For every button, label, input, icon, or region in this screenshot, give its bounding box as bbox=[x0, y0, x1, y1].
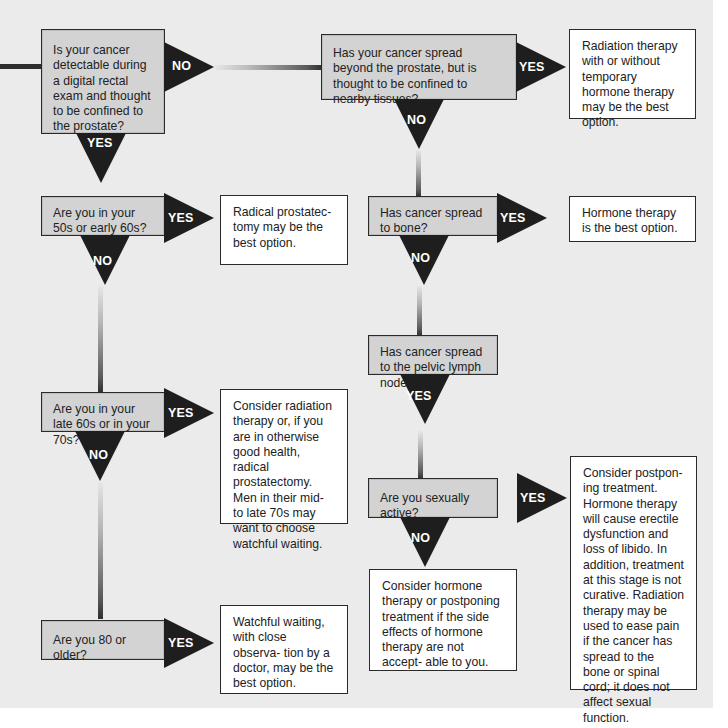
diagram-background: Is your cancer detectable during a digit… bbox=[0, 0, 713, 708]
answer-q4-yes: Watchful waiting, with close observa- ti… bbox=[220, 605, 348, 694]
yes-label: YES bbox=[168, 211, 194, 225]
question-q2: Are you in your 50s or early 60s? bbox=[41, 196, 165, 236]
yes-label: YES bbox=[500, 211, 526, 225]
no-label: NO bbox=[407, 113, 426, 127]
yes-label: YES bbox=[168, 406, 194, 420]
answer-q2-yes: Radical prostatec- tomy may be the best … bbox=[220, 195, 348, 265]
answer-q5-yes-text: Radiation therapy with or without tempor… bbox=[582, 39, 678, 129]
answer-q6-yes: Hormone therapy is the best option. bbox=[569, 196, 696, 242]
question-q4: Are you 80 or older? bbox=[41, 620, 165, 660]
yes-label: YES bbox=[168, 636, 194, 650]
no-label: NO bbox=[411, 251, 430, 265]
question-q1: Is your cancer detectable during a digit… bbox=[41, 29, 165, 134]
question-q6-text: Has cancer spread to bone? bbox=[380, 206, 482, 235]
question-q6: Has cancer spread to bone? bbox=[368, 196, 498, 236]
answer-q3-yes-text: Consider radiation therapy or, if you ar… bbox=[233, 399, 332, 551]
answer-q6-yes-text: Hormone therapy is the best option. bbox=[582, 206, 678, 235]
question-q1-text: Is your cancer detectable during a digit… bbox=[53, 43, 151, 133]
answer-q8-no: Consider hormone therapy or postponing t… bbox=[369, 569, 517, 671]
question-q4-text: Are you 80 or older? bbox=[53, 633, 126, 662]
answer-q8-yes-text: Consider postpon- ing treatment. Hormone… bbox=[583, 466, 684, 725]
yes-label: YES bbox=[520, 491, 546, 505]
answer-q3-yes: Consider radiation therapy or, if you ar… bbox=[220, 389, 348, 524]
question-q5-text: Has your cancer spread beyond the prosta… bbox=[333, 46, 477, 106]
connector-q6-q7 bbox=[417, 286, 422, 336]
connector-q1-q5 bbox=[215, 65, 323, 70]
question-q7: Has cancer spread to the pelvic lymph no… bbox=[368, 335, 498, 375]
question-q5: Has your cancer spread beyond the prosta… bbox=[321, 34, 517, 100]
answer-q4-yes-text: Watchful waiting, with close observa- ti… bbox=[233, 615, 333, 690]
question-q8-text: Are you sexually active? bbox=[380, 491, 469, 520]
connector-q2-q3 bbox=[98, 286, 103, 393]
answer-q5-yes: Radiation therapy with or without tempor… bbox=[569, 29, 696, 119]
no-label: NO bbox=[172, 59, 191, 73]
no-label: NO bbox=[93, 254, 112, 268]
yes-label: YES bbox=[406, 389, 432, 403]
yes-label: YES bbox=[87, 136, 113, 150]
connector-q3-q4 bbox=[98, 482, 103, 619]
question-q3: Are you in your late 60s or in your 70s? bbox=[41, 392, 165, 432]
no-label: NO bbox=[411, 531, 430, 545]
no-label: NO bbox=[89, 448, 108, 462]
connector-q7-q8 bbox=[418, 431, 423, 479]
question-q8: Are you sexually active? bbox=[368, 478, 498, 518]
answer-q8-no-text: Consider hormone therapy or postponing t… bbox=[382, 579, 500, 669]
answer-q2-yes-text: Radical prostatec- tomy may be the best … bbox=[233, 205, 331, 250]
yes-label: YES bbox=[519, 60, 545, 74]
connector-q5-q6 bbox=[416, 150, 421, 197]
question-q2-text: Are you in your 50s or early 60s? bbox=[53, 206, 147, 235]
answer-q8-yes: Consider postpon- ing treatment. Hormone… bbox=[570, 456, 697, 690]
incoming-connector bbox=[0, 64, 42, 69]
